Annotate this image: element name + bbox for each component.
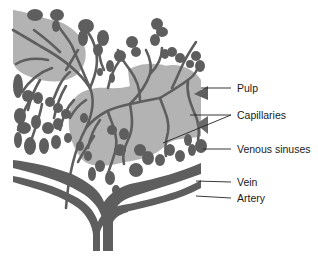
label-pulp: Pulp (237, 83, 258, 94)
label-vein: Vein (237, 177, 257, 188)
spleen-circulation-diagram (0, 0, 318, 256)
label-capillaries: Capillaries (237, 110, 286, 121)
label-artery: Artery (237, 193, 265, 204)
label-venous-sinuses: Venous sinuses (237, 144, 311, 155)
vein-pointer (196, 181, 231, 182)
artery-pointer (196, 196, 231, 198)
